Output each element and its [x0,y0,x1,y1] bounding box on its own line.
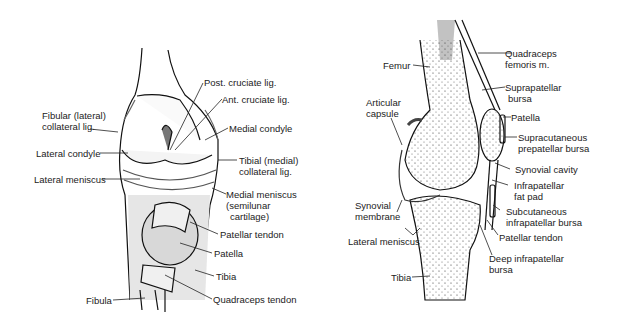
label-subcutaneous-line1: Subcutaneous [506,206,567,217]
label-deep-infrapatellar-line2: bursa [489,264,513,275]
label-articular-capsule-line1: Articular [366,97,401,108]
label-patellar-tendon-sagittal: Patellar tendon [499,232,563,243]
label-supracutaneous-line2: prepatellar bursa [518,143,589,154]
label-synovial-membrane-line1: Synovial [355,200,391,211]
label-lateral-meniscus: Lateral meniscus [34,174,106,185]
label-medial-meniscus-line2: (semilunar [226,200,270,211]
label-medial-condyle: Medial condyle [229,123,292,134]
label-fibula: Fibula [86,295,112,306]
label-quadriceps-tendon: Quadraceps tendon [213,294,296,305]
label-articular-capsule-line2: capsule [366,108,399,119]
label-quadriceps-femoris-line2: femoris m. [505,59,549,70]
label-fibular-collateral-line1: Fibular (lateral) [42,110,106,121]
label-fibular-collateral-line2: collateral lig. [42,121,95,132]
label-patella-sagittal: Patella [511,112,540,123]
label-synovial-cavity: Synovial cavity [515,164,578,175]
label-supracutaneous-line1: Supracutaneous [518,132,587,143]
label-tibial-collateral-line2: collateral lig. [239,166,292,177]
label-subcutaneous-line2: infrapatellar bursa [506,217,582,228]
label-tibial-collateral-line1: Tibial (medial) [239,155,298,166]
label-ant-cruciate: Ant. cruciate lig. [222,94,290,105]
label-patella: Patella [214,248,243,259]
label-femur: Femur [383,60,410,71]
label-infrapatellar-fat-line1: Infrapatellar [514,180,564,191]
label-infrapatellar-fat-line2: fat pad [514,191,543,202]
label-post-cruciate: Post. cruciate lig. [204,77,276,88]
label-medial-meniscus-line3: cartilage) [230,211,269,222]
label-tibia: Tibia [216,271,236,282]
label-suprapatellar-line1: Suprapatellar [505,82,562,93]
label-lateral-meniscus-sagittal: Lateral meniscus [348,236,420,247]
label-suprapatellar-line2: bursa [508,93,532,104]
label-medial-meniscus-line1: Medial meniscus [226,189,297,200]
label-deep-infrapatellar-line1: Deep infrapatellar [489,253,564,264]
label-lateral-condyle: Lateral condyle [36,148,100,159]
label-patellar-tendon: Patellar tendon [220,229,284,240]
label-tibia-sagittal: Tibia [391,272,411,283]
label-quadriceps-femoris-line1: Quadraceps [505,48,557,59]
label-synovial-membrane-line2: membrane [355,211,400,222]
